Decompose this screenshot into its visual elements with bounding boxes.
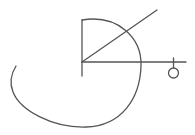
end-circle-marker (169, 68, 179, 78)
diagram-canvas (0, 0, 195, 135)
diagonal-ray-line (82, 10, 157, 62)
